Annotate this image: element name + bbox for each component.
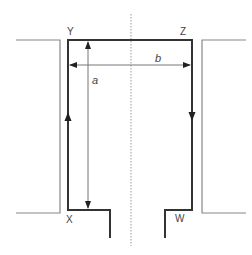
loop-conductor xyxy=(68,40,192,238)
left-outer-frame xyxy=(16,40,60,213)
corner-label-x: X xyxy=(66,214,73,225)
right-outer-frame xyxy=(202,40,246,213)
dimension-a-bottom-arrowhead-icon xyxy=(85,201,91,209)
dimension-label-b: b xyxy=(155,52,161,64)
dimension-b-right-arrowhead-icon xyxy=(183,62,191,68)
dimension-a-top-arrowhead-icon xyxy=(85,41,91,49)
corner-label-z: Z xyxy=(180,26,186,37)
dimension-b-left-arrowhead-icon xyxy=(69,62,77,68)
up-arrow-icon xyxy=(65,112,72,121)
corner-label-y: Y xyxy=(67,26,74,37)
corner-label-w: W xyxy=(175,213,185,224)
down-arrow-icon xyxy=(189,112,196,121)
coil-loop-diagram: Y Z X W a b xyxy=(0,0,252,255)
dimension-label-a: a xyxy=(92,74,98,86)
